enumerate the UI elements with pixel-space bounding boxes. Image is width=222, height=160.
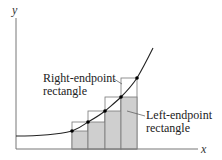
x-axis-label: x — [200, 142, 207, 156]
right-endpoint-label-line2: rectangle — [43, 84, 87, 98]
left-endpoint-label-line1: Left-endpoint — [146, 108, 213, 122]
y-axis-label: y — [11, 3, 18, 17]
right-endpoint-label-line1: Right-endpoint — [43, 71, 116, 85]
riemann-diagram: y x Right-endpoint rectangle Left-endpoi… — [0, 0, 222, 160]
left-endpoint-label-line2: rectangle — [146, 121, 190, 135]
